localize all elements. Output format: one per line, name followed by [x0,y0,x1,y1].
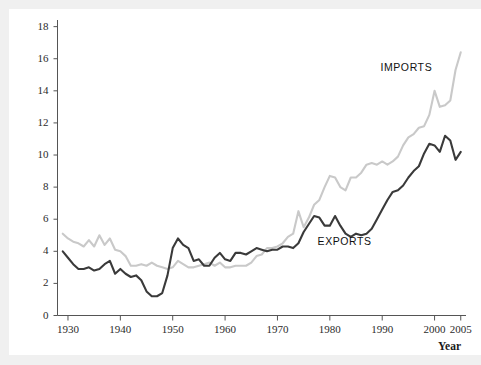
y-tick-label: 10 [27,148,49,160]
series-label-exports: EXPORTS [318,235,372,247]
x-tick-label: 1960 [205,323,245,335]
x-tick-label: 2005 [441,323,481,335]
y-tick-label: 12 [27,116,49,128]
y-tick-label: 4 [27,244,49,256]
x-tick-label: 1970 [257,323,297,335]
y-tick-label: 2 [27,276,49,288]
y-axis-ticks [54,27,58,316]
x-axis-ticks [68,316,461,321]
x-tick-label: 1930 [48,323,88,335]
x-tick-label: 1950 [153,323,193,335]
x-tick-label: 1990 [362,323,402,335]
y-tick-label: 8 [27,180,49,192]
y-tick-label: 14 [27,84,49,96]
y-tick-label: 6 [27,212,49,224]
exports-line [63,136,461,296]
imports-line [63,52,461,269]
x-tick-label: 1980 [310,323,350,335]
series-label-imports: IMPORTS [380,61,432,73]
y-tick-label: 0 [27,309,49,321]
line-chart [0,0,481,365]
x-tick-label: 1940 [100,323,140,335]
chart-page: Percent of GDP Year 024681012141618 1930… [0,0,481,365]
y-tick-label: 18 [27,20,49,32]
y-tick-label: 16 [27,52,49,64]
